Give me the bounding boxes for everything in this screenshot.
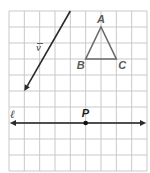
geometry-figure: v A B C ℓ P	[0, 0, 150, 173]
line-l-arrowhead-right	[140, 120, 146, 126]
line-l: ℓ P	[10, 107, 146, 126]
point-p-label: P	[82, 107, 90, 119]
grid	[9, 11, 147, 171]
vertex-a-label: A	[96, 13, 105, 25]
line-l-label: ℓ	[10, 108, 15, 120]
vector-v-label: v	[36, 41, 41, 53]
point-p	[83, 121, 88, 126]
triangle-abc: A B C	[77, 13, 128, 71]
vector-v: v	[24, 11, 70, 91]
vertex-c-label: C	[118, 59, 127, 71]
line-l-arrowhead-left	[10, 120, 16, 126]
vertex-b-label: B	[77, 59, 85, 71]
